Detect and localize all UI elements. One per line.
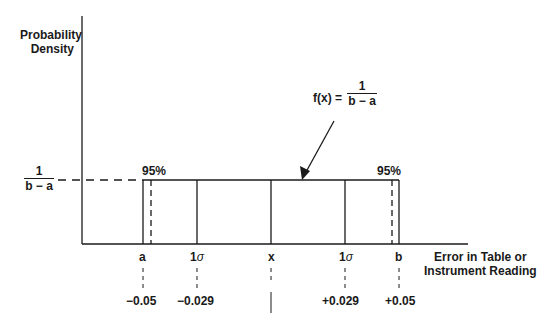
tick-sigma-right-number: 1 [339,250,346,264]
sigma-symbol: σ [346,250,353,264]
diagram-canvas [0,0,549,329]
x-axis-label: Error in Table or Instrument Reading [424,250,537,278]
function-numerator: 1 [347,80,377,93]
value-sigma-left: −0.029 [177,294,214,308]
sigma-symbol: σ [197,250,204,264]
function-fraction: 1 b − a [347,80,377,108]
function-lhs: f(x) = [313,91,342,105]
value-b: +0.05 [385,294,415,308]
x-axis-label-line1: Error in Table or [424,250,537,264]
tick-label-sigma-right: 1σ [339,250,353,264]
tick-label-a: a [139,250,146,264]
tick-label-sigma-left: 1σ [190,250,204,264]
percent-left-label: 95% [142,164,166,178]
y-axis-label-line2: Density [20,42,77,56]
tick-label-x: x [268,250,275,264]
level-denominator: b − a [24,178,54,193]
function-denominator: b − a [347,93,377,108]
y-axis-label: Probability Density [20,28,77,56]
x-axis-label-line2: Instrument Reading [424,264,537,278]
pointer-arrow-shaft [306,121,334,172]
tick-sigma-left-number: 1 [190,250,197,264]
tick-label-b: b [395,250,402,264]
level-numerator: 1 [24,165,54,178]
y-axis-label-line1: Probability [20,28,77,42]
level-fraction: 1 b − a [24,165,54,193]
percent-right-label: 95% [377,164,401,178]
value-sigma-right: +0.029 [322,294,359,308]
value-a: −0.05 [126,294,156,308]
